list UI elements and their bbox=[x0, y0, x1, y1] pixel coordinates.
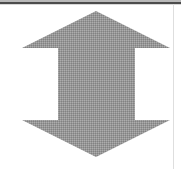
up-down-arrow-icon bbox=[22, 11, 170, 157]
double-arrow-graphic bbox=[0, 0, 181, 169]
figure-canvas bbox=[0, 0, 181, 169]
